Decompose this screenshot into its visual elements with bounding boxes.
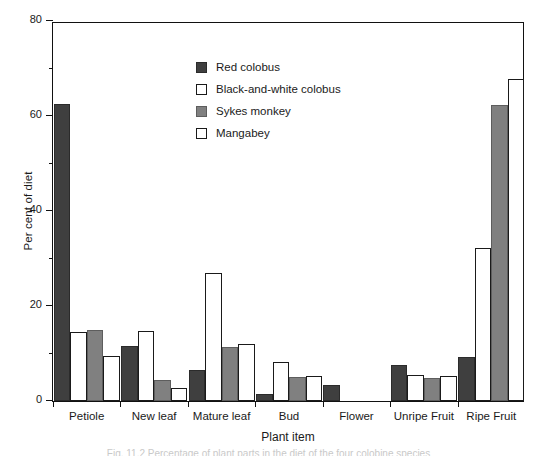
bar-petiole-black-and-white-colobus: [70, 332, 87, 401]
x-axis-tick-label: Petiole: [69, 410, 104, 422]
bar-unripe-fruit-sykes-monkey: [424, 378, 441, 401]
bar-ripe-fruit-mangabey: [508, 79, 525, 401]
y-axis-tick-label: 40: [30, 203, 42, 215]
bar-chart-figure: Per cent of diet 020406080PetioleNew lea…: [0, 0, 537, 456]
bar-unripe-fruit-red-colobus: [391, 365, 408, 401]
legend: Red colobusBlack-and-white colobusSykes …: [196, 56, 341, 144]
x-axis-tick: [323, 401, 324, 407]
legend-item: Red colobus: [196, 56, 341, 78]
bar-mature-leaf-red-colobus: [189, 370, 206, 401]
x-axis-tick: [390, 401, 391, 407]
y-axis-minor-tick: [49, 163, 54, 164]
bar-unripe-fruit-black-and-white-colobus: [407, 375, 424, 401]
x-axis-tick-label: Mature leaf: [193, 410, 251, 422]
y-axis-tick: 0: [46, 400, 53, 401]
y-axis-tick: 80: [46, 20, 53, 21]
y-axis-tick: 60: [46, 115, 53, 116]
y-axis-minor-tick: [49, 68, 54, 69]
y-axis-tick: 40: [46, 210, 53, 211]
bar-mature-leaf-black-and-white-colobus: [205, 273, 222, 401]
x-axis-tick-label: Ripe Fruit: [466, 410, 516, 422]
legend-label: Sykes monkey: [216, 105, 291, 117]
legend-swatch-icon: [196, 128, 207, 139]
x-axis-tick: [255, 401, 256, 407]
bar-petiole-mangabey: [103, 356, 120, 401]
x-axis-tick-label: Unripe Fruit: [394, 410, 454, 422]
legend-item: Sykes monkey: [196, 100, 341, 122]
x-axis-tick-label: Flower: [339, 410, 374, 422]
x-axis-tick-label: Bud: [279, 410, 299, 422]
bar-petiole-sykes-monkey: [87, 330, 104, 401]
figure-caption: Fig. 11.2 Percentage of plant parts in t…: [0, 448, 537, 456]
bar-petiole-red-colobus: [54, 104, 71, 401]
legend-label: Mangabey: [216, 127, 270, 139]
x-axis-title: Plant item: [52, 430, 524, 444]
bar-new-leaf-black-and-white-colobus: [138, 331, 155, 401]
legend-item: Mangabey: [196, 122, 341, 144]
y-axis-tick: 20: [46, 305, 53, 306]
bar-ripe-fruit-black-and-white-colobus: [475, 248, 492, 401]
bar-mature-leaf-sykes-monkey: [222, 347, 239, 401]
bar-bud-mangabey: [306, 376, 323, 401]
x-axis-tick: [120, 401, 121, 407]
x-axis-tick: [458, 401, 459, 407]
bar-flower-red-colobus: [323, 385, 340, 401]
bar-bud-black-and-white-colobus: [273, 362, 290, 401]
y-axis-minor-tick: [49, 353, 54, 354]
bar-ripe-fruit-red-colobus: [458, 357, 475, 401]
x-axis-tick: [53, 401, 54, 407]
legend-swatch-icon: [196, 84, 207, 95]
x-axis-tick: [188, 401, 189, 407]
bar-bud-sykes-monkey: [289, 377, 306, 401]
bar-bud-red-colobus: [256, 394, 273, 401]
y-axis-tick-label: 60: [30, 108, 42, 120]
bar-new-leaf-red-colobus: [121, 346, 138, 401]
legend-item: Black-and-white colobus: [196, 78, 341, 100]
x-axis-tick-label: New leaf: [132, 410, 177, 422]
y-axis-minor-tick: [49, 258, 54, 259]
y-axis-tick-label: 0: [36, 393, 42, 405]
y-axis-tick-label: 20: [30, 298, 42, 310]
bar-new-leaf-mangabey: [171, 388, 188, 401]
bar-mature-leaf-mangabey: [238, 344, 255, 401]
legend-swatch-icon: [196, 62, 207, 73]
bar-unripe-fruit-mangabey: [440, 376, 457, 401]
bar-new-leaf-sykes-monkey: [154, 380, 171, 401]
legend-swatch-icon: [196, 106, 207, 117]
legend-label: Black-and-white colobus: [216, 83, 341, 95]
bar-ripe-fruit-sykes-monkey: [491, 105, 508, 401]
legend-label: Red colobus: [216, 61, 280, 73]
y-axis-tick-label: 80: [30, 13, 42, 25]
